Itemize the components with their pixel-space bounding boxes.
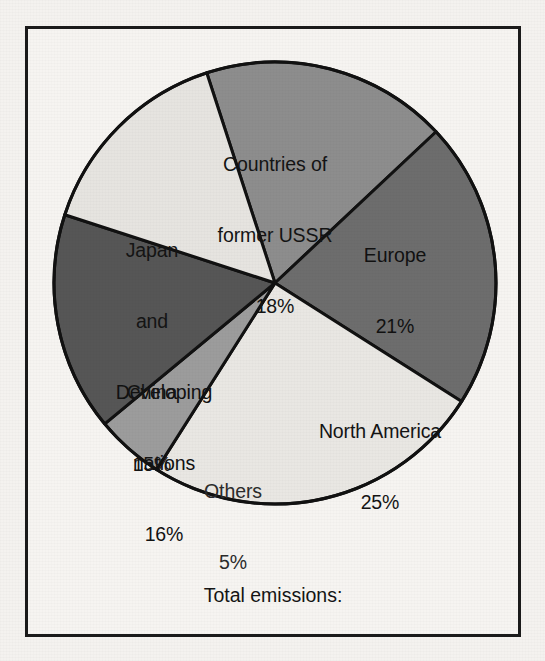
slice-value-label: 15% (98, 453, 206, 477)
slice-label-line1: Japan (98, 239, 206, 263)
slice-label-line3: China (98, 381, 206, 405)
slice-label-line1: Europe (330, 244, 460, 268)
pie-chart: Countries of former USSR 18% Europe 21% … (0, 0, 545, 661)
caption-line-1: Total emissions: (25, 582, 521, 610)
slice-value-label: 21% (330, 315, 460, 339)
slice-label-line1: North America (290, 420, 470, 444)
slice-label-japan-and-china: Japan and China 15% (98, 191, 206, 524)
chart-caption: Total emissions: 6 billion metric tons o… (25, 527, 521, 661)
slice-value-label: 25% (290, 491, 470, 515)
slice-label-line2: and (98, 310, 206, 334)
slice-label-line1: Countries of (180, 153, 370, 177)
slice-label-europe: Europe 21% (330, 196, 460, 386)
